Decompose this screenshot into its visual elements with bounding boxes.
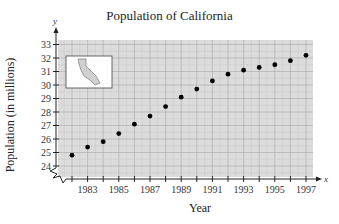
y-tick-label: 24 xyxy=(41,161,51,172)
x-tick-label: 1983 xyxy=(78,184,98,195)
y-axis-arrow-icon xyxy=(54,27,59,33)
x-tick-label: 1989 xyxy=(171,184,191,195)
data-point xyxy=(210,79,215,84)
x-tick-label: 1995 xyxy=(265,184,285,195)
x-tick-label: 1991 xyxy=(202,184,222,195)
x-tick-label: 1997 xyxy=(296,184,316,195)
y-tick-label: 27 xyxy=(41,120,51,131)
scatter-plot: y24252627282930313233x198319851987198919… xyxy=(0,0,339,224)
data-point xyxy=(148,114,153,119)
y-tick-label: 31 xyxy=(41,66,51,77)
data-point xyxy=(288,58,293,63)
data-point xyxy=(70,153,75,158)
data-point xyxy=(179,95,184,100)
data-point xyxy=(272,62,277,67)
x-axis-arrow-icon xyxy=(316,177,322,182)
data-point xyxy=(257,65,262,70)
data-point xyxy=(226,72,231,77)
x-axis-variable: x xyxy=(323,174,328,184)
data-point xyxy=(304,53,309,58)
y-axis-variable: y xyxy=(52,16,57,26)
data-point xyxy=(85,145,90,150)
x-tick-label: 1993 xyxy=(234,184,254,195)
data-point xyxy=(241,68,246,73)
data-point xyxy=(116,131,121,136)
y-tick-label: 25 xyxy=(41,147,51,158)
y-tick-label: 33 xyxy=(41,39,51,50)
x-tick-label: 1985 xyxy=(109,184,129,195)
data-point xyxy=(194,87,199,92)
data-point xyxy=(132,122,137,127)
y-tick-label: 28 xyxy=(41,107,51,118)
y-tick-label: 29 xyxy=(41,93,51,104)
y-tick-label: 30 xyxy=(41,80,51,91)
y-tick-label: 26 xyxy=(41,134,51,145)
data-point xyxy=(163,104,168,109)
x-tick-label: 1987 xyxy=(140,184,160,195)
data-point xyxy=(101,139,106,144)
y-tick-label: 32 xyxy=(41,53,51,64)
